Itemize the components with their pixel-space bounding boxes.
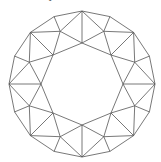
- star-facet-edge: [123, 84, 135, 106]
- upper-girdle-edge: [104, 17, 110, 32]
- star-facet-edge: [29, 62, 41, 84]
- girdle-edge: [82, 151, 110, 157]
- upper-girdle-edge: [15, 56, 30, 62]
- star-facet-edge: [104, 113, 111, 137]
- star-facet-edge: [104, 31, 111, 55]
- star-facet-edge: [29, 55, 53, 62]
- star-facet-edge: [29, 106, 53, 113]
- girdle-edge: [82, 11, 110, 17]
- bezel-edge: [30, 113, 53, 136]
- girdle-edge: [134, 112, 150, 136]
- bezel-edge: [135, 84, 155, 106]
- bezel-edge: [30, 32, 53, 55]
- upper-girdle-edge: [104, 137, 110, 152]
- girdle-edge: [54, 11, 82, 17]
- bezel-edge: [82, 11, 104, 31]
- girdle-edge: [30, 17, 54, 33]
- upper-girdle-edge: [54, 17, 60, 32]
- star-facet-edge: [82, 31, 104, 43]
- bezel-edge: [29, 32, 30, 62]
- star-facet-edge: [123, 62, 135, 84]
- table-edge: [111, 84, 123, 113]
- girdle-edge: [149, 84, 155, 112]
- bezel-edge: [111, 113, 134, 136]
- bezel-edge: [134, 32, 135, 62]
- bezel-edge: [104, 31, 134, 32]
- girdle-edge: [9, 84, 15, 112]
- star-facet-edge: [82, 125, 104, 137]
- girdle-edge: [110, 17, 134, 33]
- table-edge: [41, 84, 53, 113]
- girdle-edge: [9, 56, 15, 84]
- bezel-edge: [111, 32, 134, 55]
- upper-girdle-edge: [54, 137, 60, 152]
- table-edge: [53, 43, 82, 55]
- upper-girdle-edge: [15, 106, 30, 112]
- table-edge: [82, 43, 111, 55]
- star-facet-edge: [111, 55, 135, 62]
- table-edge: [41, 55, 53, 84]
- table-edge: [53, 113, 82, 125]
- bezel-edge: [104, 136, 134, 137]
- bezel-edge: [134, 106, 135, 136]
- upper-girdle-edge: [135, 106, 150, 112]
- girdle-edge: [134, 32, 150, 56]
- star-facet-edge: [29, 84, 41, 106]
- bezel-edge: [60, 11, 82, 31]
- star-facet-edge: [60, 31, 82, 43]
- table-edge: [82, 113, 111, 125]
- star-facet-edge: [53, 113, 60, 137]
- girdle-edge: [149, 56, 155, 84]
- girdle-edge: [15, 32, 31, 56]
- girdle-edge: [30, 136, 54, 152]
- star-facet-edge: [111, 106, 135, 113]
- bezel-edge: [29, 106, 30, 136]
- table-edge: [111, 55, 123, 84]
- bezel-edge: [9, 62, 29, 84]
- diamond-crown-diagram: [0, 0, 161, 162]
- bezel-edge: [82, 137, 104, 157]
- bezel-edge: [30, 31, 60, 32]
- bezel-edge: [60, 137, 82, 157]
- bezel-edge: [9, 84, 29, 106]
- star-facet-edge: [53, 31, 60, 55]
- bezel-edge: [135, 62, 155, 84]
- upper-girdle-edge: [135, 56, 150, 62]
- bezel-edge: [30, 136, 60, 137]
- star-facet-edge: [60, 125, 82, 137]
- girdle-edge: [54, 151, 82, 157]
- girdle-edge: [15, 112, 31, 136]
- girdle-edge: [110, 136, 134, 152]
